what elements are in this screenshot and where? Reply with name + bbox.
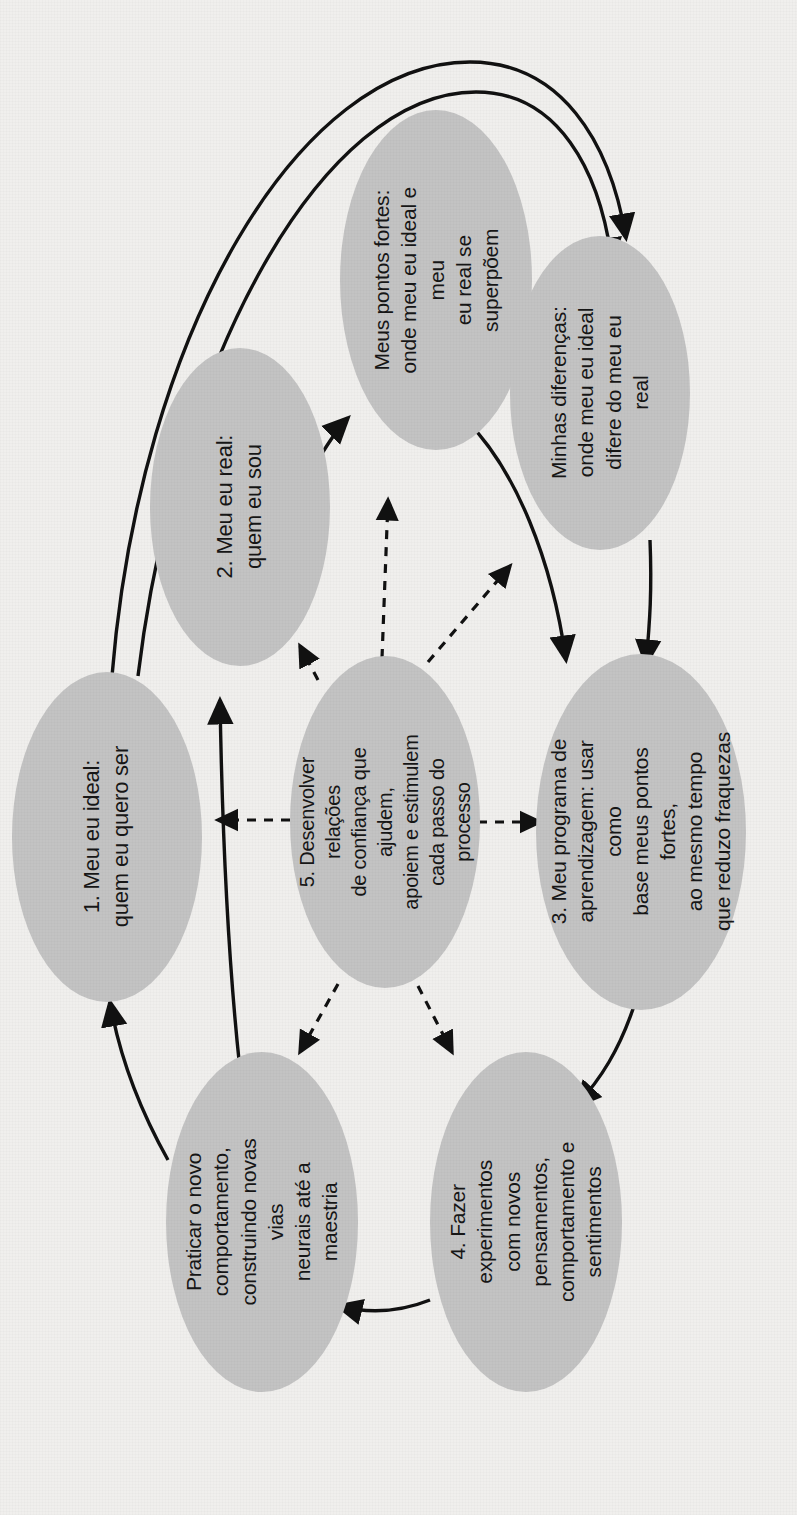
edge-relacoes-to-pontos-fortes: [382, 500, 388, 658]
node-fazer-experimentos[interactable]: 4. Fazer experimentos com novos pensamen…: [430, 1052, 622, 1392]
edge-relacoes-to-real: [300, 646, 318, 680]
node-minhas-diferencas[interactable]: Minhas diferenças: onde meu eu ideal dif…: [510, 236, 690, 550]
diagram-canvas: 1. Meu eu ideal: quem eu quero ser 2. Me…: [0, 0, 797, 1515]
node-meus-pontos-fortes[interactable]: Meus pontos fortes: onde meu eu ideal e …: [340, 110, 532, 450]
edge-diferencas-to-programa: [646, 540, 651, 664]
edge-relacoes-to-experimentos: [418, 986, 452, 1052]
node-label-meu-eu-real: 2. Meu eu real: quem eu sou: [211, 417, 268, 597]
edge-relacoes-to-praticar: [300, 984, 338, 1052]
edge-experimentos-to-praticar: [338, 1300, 430, 1311]
node-label-meu-eu-ideal: 1. Meu eu ideal: quem eu quero ser: [78, 742, 135, 932]
edge-praticar-to-real: [220, 700, 245, 1112]
edge-relacoes-to-diferencas: [428, 566, 510, 662]
node-meu-programa-de-aprendizagem[interactable]: 3. Meu programa de aprendizagem: usar co…: [536, 654, 746, 1010]
node-meu-eu-real[interactable]: 2. Meu eu real: quem eu sou: [150, 348, 330, 666]
node-praticar-o-novo-comportamento[interactable]: Praticar o novo comportamento, construin…: [166, 1052, 358, 1392]
node-label-praticar-o-novo-comportamento: Praticar o novo comportamento, construin…: [180, 1126, 344, 1318]
node-desenvolver-relacoes-de-confianca[interactable]: 5. Desenvolver relações de confiança que…: [290, 656, 480, 988]
node-label-meu-programa-de-aprendizagem: 3. Meu programa de aprendizagem: usar co…: [545, 727, 736, 937]
node-label-meus-pontos-fortes: Meus pontos fortes: onde meu eu ideal e …: [368, 184, 504, 376]
edge-praticar-to-ideal: [110, 1002, 168, 1160]
node-label-fazer-experimentos: 4. Fazer experimentos com novos pensamen…: [444, 1126, 608, 1318]
node-label-minhas-diferencas: Minhas diferenças: onde meu eu ideal dif…: [545, 303, 654, 483]
node-label-desenvolver-relacoes-de-confianca: 5. Desenvolver relações de confiança que…: [294, 727, 476, 917]
node-meu-eu-ideal[interactable]: 1. Meu eu ideal: quem eu quero ser: [12, 672, 202, 1002]
